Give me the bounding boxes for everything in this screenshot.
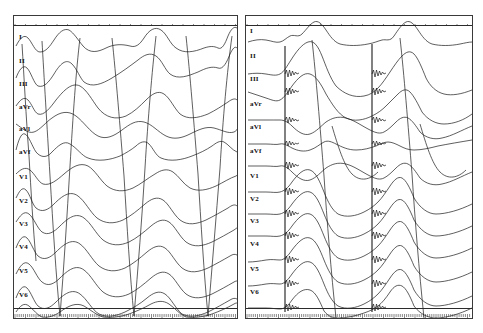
caption-divider <box>13 325 473 326</box>
lead-label-V3: V3 <box>19 221 28 228</box>
bottom-ruler-right <box>246 308 472 318</box>
lead-label-III: III <box>250 76 259 83</box>
right-trace-group <box>246 16 472 318</box>
lead-label-V2: V2 <box>19 198 28 205</box>
lead-label-aVf: aVf <box>250 148 262 155</box>
right-ecg-panel: I II III aVr aVl aVf V1 V2 V3 V4 V5 V6 <box>245 15 473 319</box>
left-trace-group <box>14 16 237 318</box>
lead-label-I: I <box>250 28 253 35</box>
lead-label-V4: V4 <box>250 241 259 248</box>
lead-label-V4: V4 <box>19 244 28 251</box>
lead-label-aVr: aVr <box>250 101 262 108</box>
lead-label-aVr: aVr <box>19 104 31 111</box>
lead-label-II: II <box>250 53 256 60</box>
lead-label-V6: V6 <box>19 292 28 299</box>
lead-label-V1: V1 <box>250 173 259 180</box>
lead-label-V6: V6 <box>250 289 259 296</box>
lead-label-II: II <box>19 58 25 65</box>
lead-label-aVf: aVf <box>19 149 31 156</box>
lead-label-V5: V5 <box>250 266 259 273</box>
ecg-figure: I II III aVr aVl aVf V1 V2 V3 V4 V5 V6 <box>0 0 483 333</box>
bottom-ruler-left <box>14 308 237 318</box>
lead-label-III: III <box>19 81 28 88</box>
lead-label-V5: V5 <box>19 268 28 275</box>
lead-label-aVl: aVl <box>250 124 261 131</box>
lead-label-V3: V3 <box>250 218 259 225</box>
left-ecg-panel: I II III aVr aVl aVf V1 V2 V3 V4 V5 V6 <box>13 15 238 319</box>
lead-label-V2: V2 <box>250 196 259 203</box>
lead-label-aVl: aVl <box>19 126 30 133</box>
lead-label-I: I <box>19 34 22 41</box>
lead-label-V1: V1 <box>19 174 28 181</box>
